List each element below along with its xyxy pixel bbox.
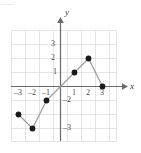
data-point [44,98,50,104]
y-tick-label-minus-3: –3 [63,124,71,132]
y-axis-label: y [65,8,69,17]
y-tick-label-minus-2: –2 [63,96,71,104]
x-tick-label-1: 1 [72,89,76,97]
x-tick-label-minus-2: –2 [28,89,36,97]
data-point [16,112,22,118]
x-tick-label-minus-3: –3 [14,89,22,97]
x-axis-label: x [130,82,134,91]
y-tick-label-1: 1 [53,68,57,76]
x-tick-label-minus-1: –1 [42,89,50,97]
y-tick-label-3: 3 [51,40,55,48]
y-axis-arrow-icon [57,17,64,23]
chart-screenshot: ___ [0,0,141,153]
y-tick-label-2: 2 [51,54,55,62]
data-point [72,70,78,76]
data-point [30,126,36,132]
data-point [86,56,92,62]
x-axis-arrow-icon [122,83,128,90]
x-tick-label-2: 2 [86,89,90,97]
x-tick-label-3: 3 [100,89,104,97]
